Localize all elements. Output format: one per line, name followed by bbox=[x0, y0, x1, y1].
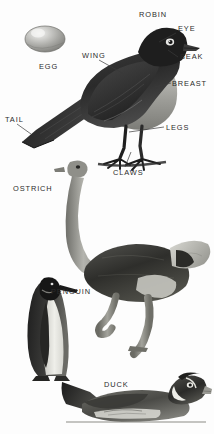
ostrich-leg-rear bbox=[99, 296, 116, 334]
ostrich-head-part bbox=[67, 160, 87, 177]
penguin-eye-part bbox=[51, 283, 54, 285]
duck-figure bbox=[60, 368, 212, 430]
label-egg: EGG bbox=[39, 63, 58, 70]
robin-illustration bbox=[20, 18, 200, 178]
label-robin: ROBIN bbox=[139, 11, 167, 18]
label-wing: WING bbox=[82, 52, 106, 59]
robin-beak-part bbox=[183, 44, 200, 51]
duck-illustration bbox=[60, 368, 212, 430]
ostrich-beak-part bbox=[54, 167, 65, 172]
ostrich-eye-part bbox=[76, 165, 80, 169]
label-ostrich: OSTRICH bbox=[13, 185, 53, 192]
penguin-foot-left bbox=[32, 376, 50, 381]
label-breast: BREAST bbox=[172, 80, 207, 87]
robin-leg-left bbox=[120, 126, 126, 158]
label-beak: BEAK bbox=[180, 53, 203, 60]
bird-anatomy-plate: ROBIN EYE EGG WING BEAK BREAST TAIL LEGS… bbox=[0, 0, 214, 434]
robin-leg-right bbox=[140, 126, 142, 158]
ostrich-leg-front bbox=[134, 298, 150, 354]
label-eye: EYE bbox=[178, 25, 196, 32]
label-tail: TAIL bbox=[5, 116, 24, 123]
label-duck: DUCK bbox=[104, 381, 129, 388]
label-legs: LEGS bbox=[166, 124, 189, 131]
label-claws: CLAWS bbox=[113, 169, 144, 176]
label-penguin: PENGUIN bbox=[51, 288, 91, 295]
robin-figure bbox=[20, 18, 200, 178]
